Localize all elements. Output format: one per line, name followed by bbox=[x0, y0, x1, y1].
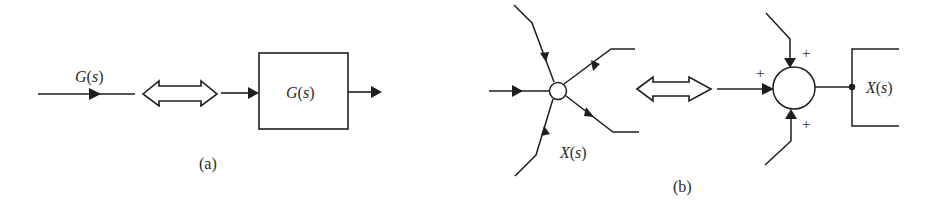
input-arrow-icon bbox=[785, 109, 797, 119]
block-diagram-equivalence-figure: G(s) G(s) (a) bbox=[0, 0, 934, 209]
output-arrow-icon bbox=[371, 86, 382, 98]
input-arrow-icon bbox=[248, 87, 259, 99]
block-label: G(s) bbox=[286, 84, 314, 102]
summing-junction-circle bbox=[773, 67, 815, 109]
part-b: X(s) + + + X(s) (b) bbox=[489, 5, 899, 196]
signal-flow-branch bbox=[38, 88, 135, 100]
input-arrow-icon bbox=[762, 83, 774, 95]
equivalence-double-arrow-icon bbox=[143, 81, 217, 106]
node-label: X(s) bbox=[559, 144, 587, 162]
outgoing-arrow-icon bbox=[584, 107, 594, 117]
sign-bottom: + bbox=[802, 116, 810, 132]
caption-a: (a) bbox=[199, 155, 217, 173]
sign-top: + bbox=[802, 45, 810, 61]
output-label: X(s) bbox=[865, 79, 893, 97]
branch-arrow-icon bbox=[89, 88, 101, 100]
outgoing-arrow-icon bbox=[591, 60, 600, 71]
part-a: G(s) G(s) (a) bbox=[38, 53, 382, 173]
incoming-arrow-icon bbox=[512, 85, 523, 97]
summing-junction-diagram: + + + X(s) bbox=[717, 13, 899, 165]
branch-gain-label: G(s) bbox=[75, 68, 103, 86]
caption-b: (b) bbox=[673, 178, 692, 196]
sign-left: + bbox=[756, 65, 764, 81]
equivalence-double-arrow-icon bbox=[637, 77, 711, 101]
incoming-arrow-icon bbox=[541, 126, 550, 136]
signal-flow-node-graph: X(s) bbox=[489, 5, 639, 176]
incoming-arrow-icon bbox=[540, 52, 549, 62]
block-diagram: G(s) bbox=[221, 53, 382, 129]
node-circle bbox=[550, 83, 567, 100]
